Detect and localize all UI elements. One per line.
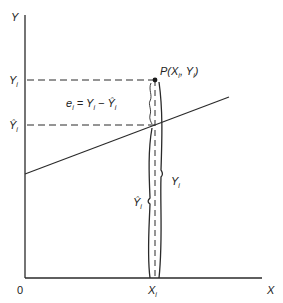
residual-formula: ei = Yi − Ŷi (66, 97, 117, 111)
xi-tick-label: Xi (147, 284, 157, 298)
fitted-brace (148, 128, 152, 278)
x-axis-label: X (266, 284, 275, 296)
point-p-label: P(Xi, Yi) (160, 65, 199, 79)
regression-diagram: Y X 0 Yi Ŷi Xi ei = Yi − Ŷi P(Xi, Yi) Yi… (0, 0, 283, 303)
fitted-brace-label: Ŷi (133, 196, 142, 210)
regression-line (25, 97, 229, 174)
residual-brace (149, 83, 152, 124)
observed-y-tick-label: Yi (9, 74, 18, 88)
fitted-y-tick-label: Ŷi (9, 119, 18, 133)
observed-brace-label: Yi (171, 175, 180, 189)
observed-brace (159, 82, 163, 278)
y-axis-label: Y (11, 11, 19, 23)
data-point-p (153, 78, 158, 83)
origin-label: 0 (17, 284, 23, 296)
